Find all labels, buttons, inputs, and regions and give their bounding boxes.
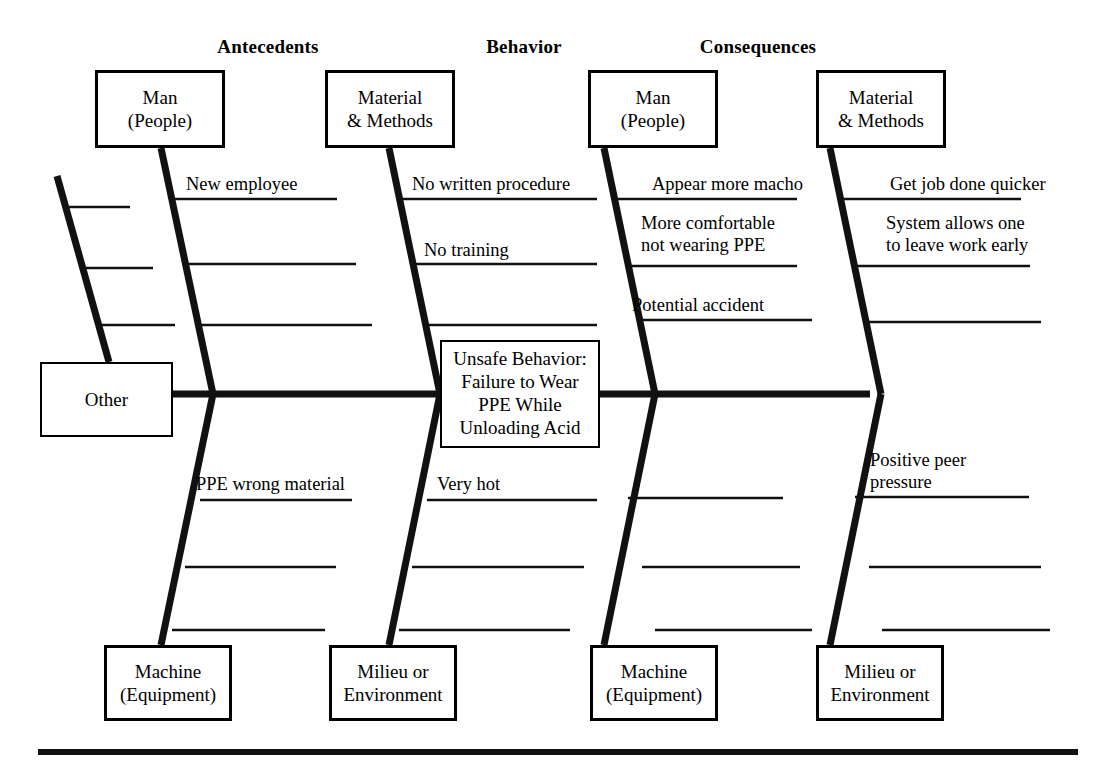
category-box-milieu-environment-antecedents[interactable]: Milieu or Environment	[329, 645, 457, 721]
cause-label-no-written-procedure[interactable]: No written procedure	[412, 174, 570, 196]
bone-other	[57, 176, 109, 362]
cause-label-system-allows-leave-work-early[interactable]: System allows one to leave work early	[886, 213, 1028, 257]
effect-box[interactable]: Unsafe Behavior: Failure to Wear PPE Whi…	[440, 340, 600, 448]
category-box-man-people-antecedents[interactable]: Man (People)	[95, 70, 225, 148]
category-box-milieu-environment-consequences[interactable]: Milieu or Environment	[816, 645, 944, 721]
column-header-behavior: Behavior	[486, 36, 562, 58]
bone-man-consequences	[604, 148, 655, 394]
cause-label-get-job-done-quicker[interactable]: Get job done quicker	[890, 174, 1046, 196]
column-header-consequences: Consequences	[700, 36, 816, 58]
cause-label-positive-peer-pressure[interactable]: Positive peer pressure	[870, 450, 966, 494]
cause-label-more-comfortable-not-wearing-ppe[interactable]: More comfortable not wearing PPE	[641, 213, 775, 257]
cause-label-potential-accident[interactable]: Potential accident	[632, 295, 764, 317]
category-box-man-people-consequences[interactable]: Man (People)	[588, 70, 718, 148]
category-box-machine-equipment-consequences[interactable]: Machine (Equipment)	[590, 645, 718, 721]
cause-label-ppe-wrong-material[interactable]: PPE wrong material	[196, 474, 345, 496]
bone-milieu-antecedents	[389, 394, 440, 645]
category-box-material-methods-consequences[interactable]: Material & Methods	[816, 70, 946, 148]
bone-material-consequences	[830, 148, 881, 394]
cause-label-new-employee[interactable]: New employee	[186, 174, 297, 196]
category-box-other[interactable]: Other	[40, 362, 173, 437]
cause-label-no-training[interactable]: No training	[424, 240, 509, 262]
category-box-material-methods-antecedents[interactable]: Material & Methods	[325, 70, 455, 148]
column-header-antecedents: Antecedents	[217, 36, 318, 58]
cause-label-appear-more-macho[interactable]: Appear more macho	[652, 174, 803, 196]
fishbone-diagram-canvas: Antecedents Behavior Consequences Man (P…	[0, 0, 1102, 769]
cause-label-very-hot[interactable]: Very hot	[437, 474, 500, 496]
bone-milieu-consequences	[830, 394, 881, 645]
category-box-machine-equipment-antecedents[interactable]: Machine (Equipment)	[104, 645, 232, 721]
bone-machine-consequences	[604, 394, 655, 645]
